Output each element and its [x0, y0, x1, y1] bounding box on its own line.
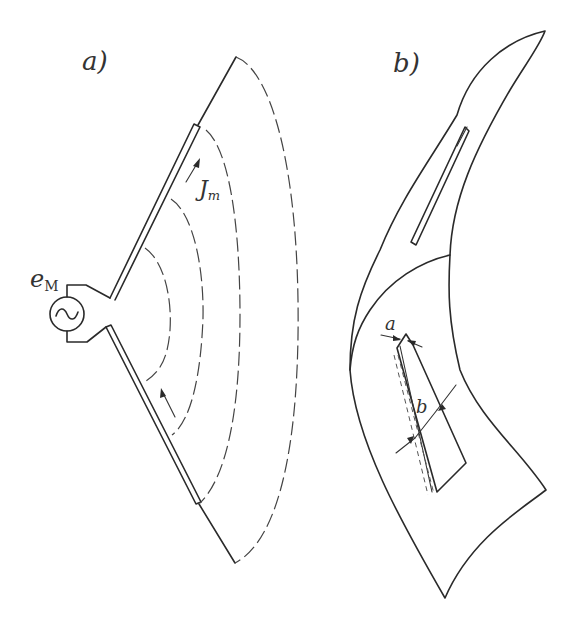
- field-line-outer: [235, 57, 298, 563]
- current-arrow-lower: [160, 388, 175, 417]
- source-label: eM: [30, 265, 59, 294]
- panel-b: b) a: [350, 31, 546, 598]
- dimension-b-label: b: [416, 396, 428, 417]
- current-arrow-upper: [186, 158, 200, 182]
- lower-slot: [106, 325, 201, 504]
- slot-antenna-figure: a) eM Jm: [0, 0, 582, 628]
- upper-slot: [110, 124, 200, 300]
- lower-tapered-slot: [394, 334, 466, 495]
- panel-b-label: b): [393, 48, 420, 78]
- generator-feed: [50, 285, 110, 342]
- panel-a: a) eM Jm: [30, 46, 298, 563]
- plate-upper-edge: [198, 57, 236, 125]
- plate-lower-edge: [199, 504, 235, 563]
- curved-surface-outline: [350, 31, 546, 598]
- field-line-2: [171, 199, 203, 435]
- upper-surface-slot: [411, 127, 469, 245]
- dimension-a-label: a: [385, 313, 396, 334]
- current-label: Jm: [195, 176, 220, 203]
- field-line-1: [145, 248, 170, 381]
- sine-wave-icon: [56, 309, 78, 319]
- field-lines: [145, 57, 298, 563]
- surface-boundary-curve: [350, 255, 450, 370]
- panel-a-label: a): [82, 46, 108, 76]
